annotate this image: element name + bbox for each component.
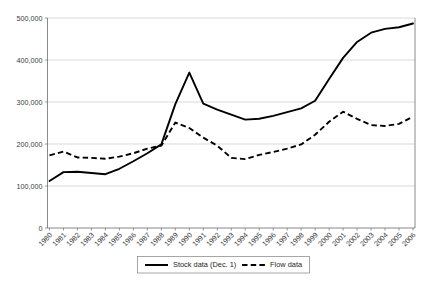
y-axis-tick-label: 300,000	[17, 98, 43, 107]
chart-figure: 0100,000200,000300,000400,000500,000 198…	[0, 0, 427, 286]
chart-legend: Stock data (Dec. 1) Flow data	[138, 257, 310, 274]
legend-label-stock-data: Stock data (Dec. 1)	[173, 260, 236, 269]
y-axis-tick-label: 500,000	[17, 14, 43, 23]
line-chart: 0100,000200,000300,000400,000500,000 198…	[0, 0, 427, 286]
y-axis-tick-label: 0	[39, 224, 43, 233]
y-axis-tick-label: 400,000	[17, 56, 43, 65]
y-axis-tick-label: 100,000	[17, 182, 43, 191]
legend-label-flow-data: Flow data	[270, 260, 303, 269]
y-axis-tick-label: 200,000	[17, 140, 43, 149]
